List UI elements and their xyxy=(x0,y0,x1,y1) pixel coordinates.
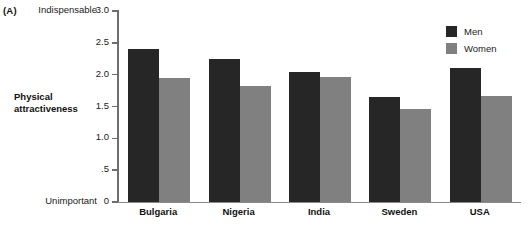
legend-item-women: Women xyxy=(446,41,497,56)
y-axis-tick-label: 1.0 xyxy=(78,131,109,142)
bar-usa-men xyxy=(450,68,481,202)
y-axis-tick-label: 0 xyxy=(78,195,109,206)
legend-item-men: Men xyxy=(446,24,497,39)
y-axis-tick-label: .5 xyxy=(78,163,109,174)
x-axis-label-bulgaria: Bulgaria xyxy=(118,206,198,217)
y-axis-tick-label: 2.5 xyxy=(78,36,109,47)
bar-sweden-women xyxy=(400,109,431,202)
x-axis-label-sweden: Sweden xyxy=(359,206,439,217)
bar-india-women xyxy=(320,77,351,202)
bar-india-men xyxy=(289,72,320,202)
bar-bulgaria-women xyxy=(159,78,190,202)
bar-sweden-men xyxy=(369,97,400,202)
chart-figure: (A) Indispensable Unimportant Physical a… xyxy=(0,0,531,246)
bar-group xyxy=(369,11,431,202)
bar-group xyxy=(289,11,351,202)
bar-group xyxy=(209,11,271,202)
chart-legend: MenWomen xyxy=(446,24,497,58)
x-axis-label-usa: USA xyxy=(440,206,520,217)
bar-group xyxy=(128,11,190,202)
bar-usa-women xyxy=(481,96,512,202)
legend-swatch-women xyxy=(446,43,457,54)
y-axis-tick-label: 3.0 xyxy=(78,4,109,15)
legend-label-men: Men xyxy=(464,26,482,37)
bar-bulgaria-men xyxy=(128,49,159,202)
legend-swatch-men xyxy=(446,26,457,37)
bar-nigeria-men xyxy=(209,59,240,202)
y-axis-tick-label: 1.5 xyxy=(78,100,109,111)
bar-nigeria-women xyxy=(240,86,271,202)
x-axis-label-nigeria: Nigeria xyxy=(198,206,278,217)
y-axis-tick-label: 2.0 xyxy=(78,68,109,79)
x-axis-label-india: India xyxy=(279,206,359,217)
legend-label-women: Women xyxy=(464,43,497,54)
